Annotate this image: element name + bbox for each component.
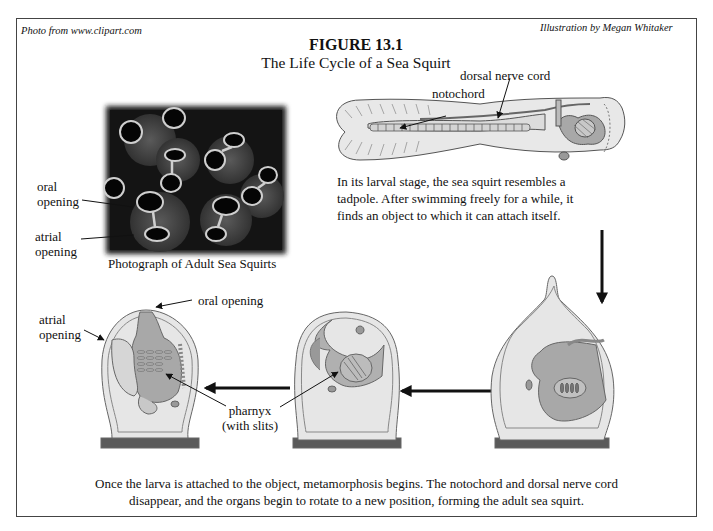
adult-atrial-label-line1: atrial xyxy=(39,312,81,327)
adult-sea-squirt-illustration xyxy=(101,310,199,448)
metamorphosis-caption-line2: disappear, and the organs begin to rotat… xyxy=(30,492,683,509)
photo-atrial-label-line2: opening xyxy=(35,244,77,259)
adult-oral-opening-label: oral opening xyxy=(198,293,263,308)
larva-description-line3: finds an object to which it can attach i… xyxy=(337,207,617,224)
photo-atrial-label-line1: atrial xyxy=(35,229,77,244)
pharnyx-label: pharnyx (with slits) xyxy=(222,403,278,433)
metamorphosis-caption: Once the larva is attached to the object… xyxy=(30,475,683,509)
photo-atrial-opening-label: atrial opening xyxy=(35,229,77,259)
metamorphosing-larva-illustration xyxy=(293,312,401,448)
dorsal-nerve-cord-label: dorsal nerve cord xyxy=(460,68,550,83)
larva-description-line1: In its larval stage, the sea squirt rese… xyxy=(337,173,617,190)
adult-sea-squirts-photo xyxy=(104,106,286,254)
notochord-label: notochord xyxy=(432,86,485,101)
pharnyx-label-line2: (with slits) xyxy=(222,418,278,433)
larva-description: In its larval stage, the sea squirt rese… xyxy=(337,173,617,224)
larva-description-line2: tadpole. After swimming freely for a whi… xyxy=(337,190,617,207)
pharnyx-label-line1: pharnyx xyxy=(222,403,278,418)
diagram-graphics xyxy=(0,0,713,531)
photo-oral-label-line2: opening xyxy=(37,194,79,209)
metamorphosis-caption-line1: Once the larva is attached to the object… xyxy=(30,475,683,492)
photo-oral-label-line1: oral xyxy=(37,179,79,194)
adult-atrial-opening-label: atrial opening xyxy=(39,312,81,342)
photo-oral-opening-label: oral opening xyxy=(37,179,79,209)
larva-illustration xyxy=(337,97,625,160)
adult-atrial-label-line2: opening xyxy=(39,327,81,342)
photo-caption: Photograph of Adult Sea Squirts xyxy=(108,256,276,271)
attached-larva-illustration xyxy=(491,276,614,448)
